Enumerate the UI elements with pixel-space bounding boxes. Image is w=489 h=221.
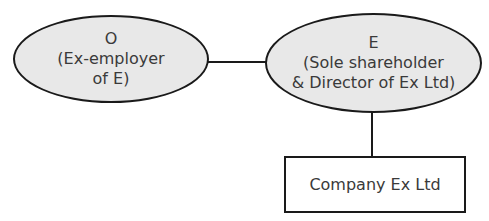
- node-o-title: O: [105, 29, 118, 49]
- node-company-ex-ltd: Company Ex Ltd: [284, 156, 466, 213]
- connector-o-e: [207, 61, 267, 63]
- node-o-line-2: (Ex-employer: [57, 49, 164, 69]
- node-o-line-3: of E): [93, 69, 130, 89]
- node-e-line-2: (Sole shareholder: [303, 53, 444, 73]
- relationship-diagram: O (Ex-employer of E) E (Sole shareholder…: [0, 0, 489, 221]
- node-o-ex-employer: O (Ex-employer of E): [13, 15, 209, 103]
- connector-e-company: [371, 110, 373, 157]
- node-company-label: Company Ex Ltd: [309, 175, 440, 194]
- node-e-line-3: & Director of Ex Ltd): [292, 73, 456, 93]
- node-e-title: E: [368, 33, 378, 53]
- node-e-shareholder-director: E (Sole shareholder & Director of Ex Ltd…: [265, 13, 482, 113]
